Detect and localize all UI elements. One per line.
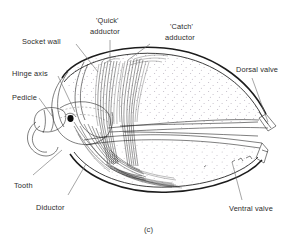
figure-caption: (c) — [144, 225, 153, 234]
label-catch-adductor-line2: adductor — [165, 33, 195, 42]
label-diductor: Diductor — [36, 203, 65, 212]
figure-container: Socket wall Hinge axis Pedicle Tooth Did… — [0, 0, 301, 247]
label-quick-adductor-line2: adductor — [90, 27, 120, 36]
pedicle-structure — [27, 108, 65, 156]
label-quick-adductor-line1: 'Quick' — [96, 16, 119, 25]
label-ventral-valve: Ventral valve — [229, 204, 273, 213]
label-socket-wall: Socket wall — [22, 37, 61, 46]
label-dorsal-valve: Dorsal valve — [236, 65, 278, 74]
label-catch-adductor-line1: 'Catch' — [170, 22, 193, 31]
label-pedicle: Pedicle — [12, 93, 37, 102]
label-tooth: Tooth — [14, 181, 33, 190]
dorsal-valve-interior — [66, 52, 260, 128]
hinge-pivot — [67, 115, 73, 122]
connective-lines — [120, 122, 258, 136]
leader-diductor — [68, 164, 86, 195]
label-hinge-axis: Hinge axis — [12, 69, 48, 78]
leader-pedicle — [39, 98, 52, 116]
anatomical-diagram: Socket wall Hinge axis Pedicle Tooth Did… — [0, 0, 301, 247]
